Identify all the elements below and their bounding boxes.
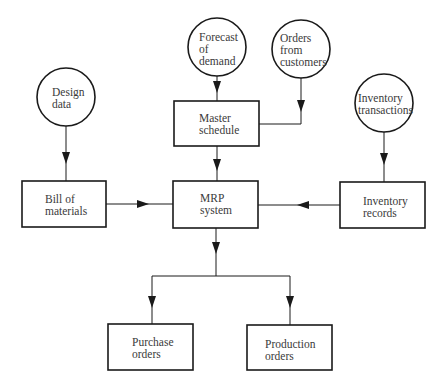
arrowhead-icon (297, 100, 305, 112)
arrowhead-icon (212, 242, 220, 254)
inventory-transactions-label: Inventory transactions (358, 92, 413, 116)
mrp-system-label: MRP system (200, 192, 232, 216)
inventory-records-label: Inventory records (363, 195, 408, 219)
arrowhead-icon (213, 159, 221, 171)
arrowhead-icon (213, 81, 221, 93)
arrowhead-icon (380, 153, 388, 165)
orders-customers-label: Orders from customers (280, 32, 327, 68)
forecast-label: Forecast of demand (199, 31, 238, 67)
arrowhead-icon (297, 201, 309, 209)
arrowhead-icon (286, 296, 294, 308)
arrowhead-icon (137, 200, 149, 208)
edge-orders-master (259, 78, 301, 124)
bill-of-materials-label: Bill of materials (45, 193, 87, 217)
production-orders-label: Production orders (265, 338, 315, 362)
design-data-label: Design data (52, 86, 85, 110)
edge-branch (152, 276, 290, 325)
arrowhead-icon (148, 296, 156, 308)
purchase-orders-label: Purchase orders (132, 336, 174, 360)
master-schedule-label: Master schedule (199, 112, 239, 136)
arrowhead-icon (62, 152, 70, 164)
